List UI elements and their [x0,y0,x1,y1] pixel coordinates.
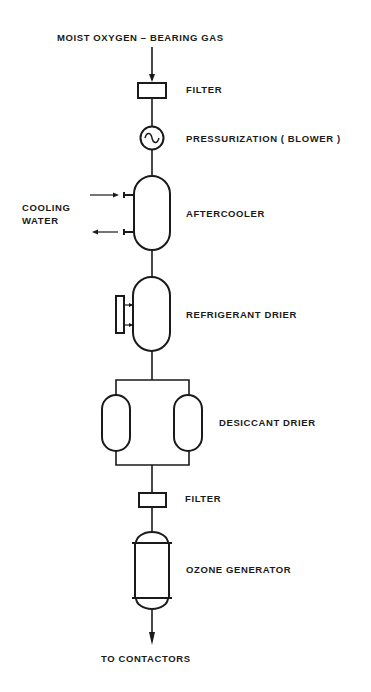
outlet-arrow-icon [149,632,155,645]
desiccant-inlet-manifold [116,380,189,396]
flow-diagram-graphics [0,0,371,692]
input-label: MOIST OXYGEN – BEARING GAS [57,31,224,45]
stage-label-desiccant-drier: DESICCANT DRIER [219,416,316,430]
aftercooler-symbol [134,176,170,250]
ozone-generator-top-cap [136,532,168,543]
refrigeration-unit-symbol [116,296,124,333]
desiccant-outlet-manifold [116,451,189,465]
desiccant-vessel-right [174,395,202,451]
inlet-arrow-icon [149,74,155,82]
blower-wave-icon [145,133,159,142]
filter-1-symbol [138,83,166,98]
cooling-water-out-arrow-icon [92,230,98,235]
cooling-water-label-line2: WATER [22,214,59,228]
cooling-water-label-line1: COOLING [22,201,71,215]
desiccant-vessel-left [102,395,130,451]
stage-label-refrigerant-drier: REFRIGERANT DRIER [186,308,297,322]
ozone-generator-bottom-cap [136,598,168,609]
output-label: TO CONTACTORS [101,652,191,666]
stage-label-filter-2: FILTER [185,492,221,506]
stage-label-filter-1: FILTER [186,83,222,97]
stage-label-blower: PRESSURIZATION ( BLOWER ) [186,132,341,146]
stage-label-ozone-generator: OZONE GENERATOR [186,563,291,577]
filter-2-symbol [139,493,166,507]
cooling-water-in-arrow-icon [113,193,119,198]
ozone-generator-symbol [135,543,169,598]
stage-label-aftercooler: AFTERCOOLER [186,207,265,221]
process-flow-diagram: MOIST OXYGEN – BEARING GAS FILTER PRESSU… [0,0,371,692]
refrigerant-drier-symbol [133,277,170,351]
